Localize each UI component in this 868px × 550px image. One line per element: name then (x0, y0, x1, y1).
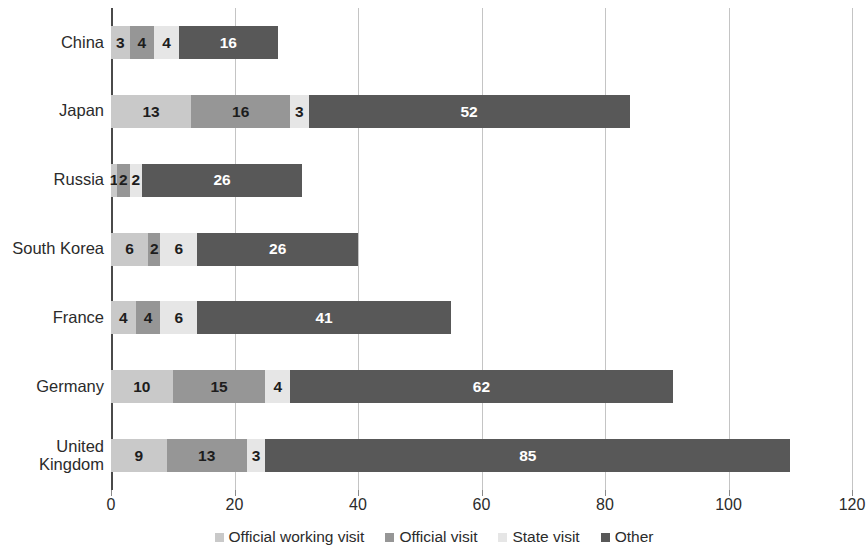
axis-tick-label: 20 (226, 496, 244, 514)
category-label: Russia (0, 164, 104, 197)
axis-tick-label: 60 (473, 496, 491, 514)
bar-segment-value: 4 (273, 379, 282, 395)
category-label: Japan (0, 95, 104, 128)
bar-segment[interactable]: 26 (142, 164, 303, 197)
bar-segment[interactable]: 3 (247, 439, 266, 472)
stacked-bar-chart: ChinaJapanRussiaSouth KoreaFranceGermany… (0, 0, 868, 550)
bar-segment-value: 26 (214, 172, 231, 188)
bar-segment-value: 6 (175, 310, 184, 326)
category-label-text: China (0, 34, 104, 52)
legend-item[interactable]: Official working visit (215, 528, 365, 546)
legend-swatch-icon (215, 533, 224, 542)
bar-segment-value: 10 (133, 379, 150, 395)
bar-segment[interactable]: 9 (111, 439, 167, 472)
bar-segment-value: 6 (175, 241, 184, 257)
bar-segment[interactable]: 13 (167, 439, 247, 472)
bar-segment-value: 2 (131, 172, 140, 188)
category-label: Germany (0, 370, 104, 403)
bar-segment-value: 2 (150, 241, 159, 257)
bar-stack: 1015462 (111, 370, 673, 403)
bar-segment[interactable]: 3 (111, 26, 130, 59)
legend-label: State visit (512, 528, 579, 546)
bar-segment-value: 13 (198, 448, 215, 464)
bar-segment-value: 41 (315, 310, 332, 326)
axis-tick-label: 80 (596, 496, 614, 514)
bar-segment-value: 3 (295, 104, 304, 120)
bar-row: 44641 (111, 301, 852, 334)
bar-row: 12226 (111, 164, 852, 197)
bar-segment-value: 4 (138, 35, 147, 51)
bar-segment-value: 3 (116, 35, 125, 51)
category-label: France (0, 301, 104, 334)
category-label-text: Russia (0, 171, 104, 189)
bar-segment[interactable]: 62 (290, 370, 673, 403)
bar-segment-value: 16 (220, 35, 237, 51)
bar-segment[interactable]: 26 (197, 233, 358, 266)
plot-area: 3441613163521222662626446411015462913385 (111, 8, 852, 490)
bar-segment-value: 13 (143, 104, 160, 120)
bar-segment[interactable]: 6 (160, 301, 197, 334)
bar-segment-value: 4 (119, 310, 128, 326)
category-label-text: United Kingdom (0, 438, 104, 474)
axis-tick-label: 100 (715, 496, 742, 514)
bar-segment[interactable]: 85 (265, 439, 790, 472)
bar-segment[interactable]: 2 (117, 164, 129, 197)
category-label-text: South Korea (0, 240, 104, 258)
chart-legend: Official working visitOfficial visitStat… (0, 524, 868, 550)
bar-segment-value: 3 (252, 448, 261, 464)
bar-segment-value: 26 (269, 241, 286, 257)
bar-segment-value: 16 (232, 104, 249, 120)
legend-swatch-icon (385, 533, 394, 542)
axis-tick-label: 40 (349, 496, 367, 514)
bar-segment-value: 4 (162, 35, 171, 51)
axis-tick-label: 0 (107, 496, 116, 514)
bar-stack: 12226 (111, 164, 302, 197)
bar-segment[interactable]: 6 (160, 233, 197, 266)
bar-segment-value: 2 (119, 172, 128, 188)
bar-stack: 62626 (111, 233, 358, 266)
bar-segment-value: 4 (144, 310, 153, 326)
bar-segment[interactable]: 2 (130, 164, 142, 197)
bar-segment[interactable]: 3 (290, 95, 309, 128)
legend-label: Official working visit (229, 528, 365, 546)
value-axis: 020406080100120 (111, 490, 852, 516)
bar-stack: 34416 (111, 26, 278, 59)
bar-segment[interactable]: 13 (111, 95, 191, 128)
bar-segment[interactable]: 41 (197, 301, 450, 334)
bar-segment[interactable]: 52 (309, 95, 630, 128)
legend-item[interactable]: Official visit (385, 528, 477, 546)
bar-segment-value: 85 (519, 448, 536, 464)
bar-segment[interactable]: 4 (136, 301, 161, 334)
legend-item[interactable]: State visit (498, 528, 579, 546)
category-label: China (0, 26, 104, 59)
category-label: United Kingdom (0, 439, 104, 472)
gridline-120 (852, 8, 853, 490)
bar-row: 34416 (111, 26, 852, 59)
bar-row: 62626 (111, 233, 852, 266)
legend-swatch-icon (601, 533, 610, 542)
bar-row: 1316352 (111, 95, 852, 128)
bar-segment-value: 9 (134, 448, 143, 464)
bar-segment[interactable]: 6 (111, 233, 148, 266)
bar-segment[interactable]: 4 (154, 26, 179, 59)
bar-segment[interactable]: 4 (265, 370, 290, 403)
legend-item[interactable]: Other (601, 528, 654, 546)
bar-row: 1015462 (111, 370, 852, 403)
bar-stack: 44641 (111, 301, 451, 334)
bar-segment-value: 62 (473, 379, 490, 395)
category-label-text: Germany (0, 378, 104, 396)
axis-tick-label: 120 (839, 496, 866, 514)
bar-segment[interactable]: 16 (191, 95, 290, 128)
category-axis: ChinaJapanRussiaSouth KoreaFranceGermany… (0, 8, 107, 490)
bar-segment[interactable]: 2 (148, 233, 160, 266)
bar-segment-value: 52 (461, 104, 478, 120)
bar-segment[interactable]: 15 (173, 370, 266, 403)
bar-segment-value: 6 (125, 241, 134, 257)
legend-label: Other (615, 528, 654, 546)
bar-stack: 913385 (111, 439, 790, 472)
bar-segment[interactable]: 10 (111, 370, 173, 403)
bar-segment[interactable]: 16 (179, 26, 278, 59)
bar-row: 913385 (111, 439, 852, 472)
bar-segment[interactable]: 4 (111, 301, 136, 334)
bar-segment[interactable]: 4 (130, 26, 155, 59)
